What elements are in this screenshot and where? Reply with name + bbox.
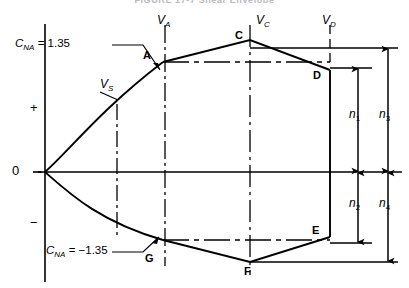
leader-line-c-na-negative	[112, 237, 159, 252]
station-label-va: VA	[157, 14, 170, 29]
dimension-n1-symbol: n	[349, 107, 356, 121]
station-va-symbol: V	[157, 13, 165, 27]
dimension-n3-symbol: n	[379, 107, 386, 121]
station-vd-subscript: D	[330, 20, 336, 29]
dimension-n1-subscript: 1	[356, 114, 360, 123]
dimension-label-n3: n3	[379, 108, 390, 123]
annotation-c-na-positive: CNA = 1.35	[15, 38, 70, 52]
axis-zero-label: 0	[12, 164, 19, 177]
annotation-c-na-negative: CNA = −1.35	[46, 245, 108, 259]
station-label-vs: VS	[100, 78, 113, 93]
upper-envelope-polyline	[163, 40, 330, 70]
point-label-d: D	[313, 70, 321, 81]
lower-fall-curve	[45, 172, 163, 240]
c-na-negative-subscript: NA	[54, 250, 65, 259]
axis-negative-label: −	[30, 216, 38, 229]
point-label-e: E	[312, 225, 319, 236]
dimension-label-n4: n4	[379, 197, 390, 212]
shear-envelope-figure: FIGURE 17-7 Shear Envelope	[0, 0, 409, 288]
station-va-subscript: A	[165, 20, 170, 29]
point-label-g: G	[145, 253, 154, 264]
dimension-n3-subscript: 3	[386, 114, 390, 123]
point-label-c: C	[235, 30, 243, 41]
station-label-vd: VD	[322, 14, 336, 29]
point-label-a: A	[143, 50, 151, 61]
dimension-label-n2: n2	[349, 197, 360, 212]
c-na-positive-subscript: NA	[23, 43, 34, 52]
c-na-negative-value: = −1.35	[65, 244, 107, 256]
station-label-vc: VC	[256, 14, 270, 29]
dimension-n2-subscript: 2	[356, 203, 360, 212]
station-vs-symbol: V	[100, 77, 108, 91]
station-vs-subscript: S	[108, 84, 113, 93]
dimension-label-n1: n1	[349, 108, 360, 123]
dimension-n2-symbol: n	[349, 196, 356, 210]
leader-line-c-na-positive	[112, 45, 160, 70]
point-label-f: F	[244, 266, 251, 277]
lower-envelope-polyline	[163, 237, 330, 262]
dimension-n4-symbol: n	[379, 196, 386, 210]
station-vc-subscript: C	[264, 20, 270, 29]
axis-positive-label: +	[30, 101, 38, 114]
station-vd-symbol: V	[322, 13, 330, 27]
c-na-positive-value: = 1.35	[34, 37, 70, 49]
dimension-n4-subscript: 4	[386, 203, 390, 212]
station-vc-symbol: V	[256, 13, 264, 27]
